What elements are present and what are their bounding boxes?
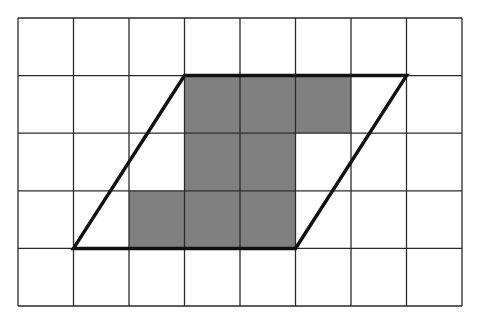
grid-lines — [18, 18, 462, 306]
shaded-cell — [240, 133, 296, 191]
shaded-cell — [240, 191, 296, 249]
grid-diagram — [0, 0, 477, 319]
shaded-cell — [185, 191, 241, 249]
shaded-cell — [296, 76, 352, 134]
shaded-cell — [185, 76, 241, 134]
shaded-cell — [240, 76, 296, 134]
shaded-cell — [129, 191, 185, 249]
shaded-cell — [185, 133, 241, 191]
